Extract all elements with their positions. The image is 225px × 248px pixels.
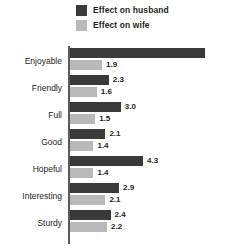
bars-container: 2.42.2 [70,209,225,236]
bar-husband[interactable] [70,183,120,193]
bar-wife[interactable] [70,222,108,232]
plot-area: Enjoyable7.91.9Friendly2.31.6Full3.01.5G… [0,44,224,248]
category-label: Hopeful [0,155,62,182]
bar-value-label: 1.4 [97,141,108,151]
bar-husband[interactable] [70,210,111,220]
bar-value-label: 1.5 [99,114,110,124]
bar-row: 2.1 [70,195,121,205]
bar-wife[interactable] [70,114,96,124]
bar-husband[interactable] [70,129,106,139]
bar-row: 1.6 [70,87,112,97]
bar-wife[interactable] [70,141,94,151]
bar-row: 7.9 [70,48,225,58]
bar-value-label: 2.9 [123,183,134,193]
bar-group: Full3.01.5 [0,101,224,128]
bar-value-label: 4.3 [147,156,158,166]
bar-value-label: 1.9 [106,60,117,70]
bar-value-label: 3.0 [125,102,136,112]
bar-chart: Effect on husbandEffect on wife Enjoyabl… [0,0,224,248]
bar-group: Hopeful4.31.4 [0,155,224,182]
legend-item-label: Effect on husband [93,5,169,16]
bars-container: 2.92.1 [70,182,225,209]
legend-item[interactable]: Effect on husband [76,4,169,16]
bar-husband[interactable] [70,75,109,85]
bar-value-label: 1.6 [101,87,112,97]
bar-row: 1.4 [70,168,109,178]
bar-row: 2.1 [70,129,121,139]
bars-container: 2.31.6 [70,74,225,101]
bar-groups: Enjoyable7.91.9Friendly2.31.6Full3.01.5G… [0,47,224,236]
bar-value-label: 2.4 [115,210,126,220]
category-label: Enjoyable [0,47,62,74]
category-label: Good [0,128,62,155]
bar-group: Enjoyable7.91.9 [0,47,224,74]
bar-group: Good2.11.4 [0,128,224,155]
legend-item-label: Effect on wife [93,20,150,31]
legend-item[interactable]: Effect on wife [76,19,169,31]
bar-group: Interesting2.92.1 [0,182,224,209]
category-label: Interesting [0,182,62,209]
bar-row: 2.4 [70,210,126,220]
bar-row: 1.4 [70,141,109,151]
bar-row: 1.5 [70,114,111,124]
bar-row: 2.2 [70,222,123,232]
bar-group: Friendly2.31.6 [0,74,224,101]
chart-legend: Effect on husbandEffect on wife [76,4,169,31]
bar-husband[interactable]: 7.9 [70,48,205,58]
bars-container: 4.31.4 [70,155,225,182]
bar-wife[interactable] [70,195,106,205]
bar-wife[interactable] [70,87,97,97]
bars-container: 7.91.9 [70,47,225,74]
category-label: Friendly [0,74,62,101]
bar-husband[interactable] [70,156,144,166]
bar-value-label: 2.1 [109,195,120,205]
bar-row: 1.9 [70,60,118,70]
bar-row: 3.0 [70,102,136,112]
bar-wife[interactable] [70,60,102,70]
category-label: Sturdy [0,209,62,236]
bar-value-label: 1.4 [97,168,108,178]
bar-value-label: 2.1 [109,129,120,139]
bar-wife[interactable] [70,168,94,178]
bar-row: 4.3 [70,156,159,166]
legend-swatch-icon [76,20,87,31]
bar-row: 2.9 [70,183,135,193]
bar-row: 2.3 [70,75,124,85]
bar-husband[interactable] [70,102,121,112]
bar-group: Sturdy2.42.2 [0,209,224,236]
bars-container: 3.01.5 [70,101,225,128]
bar-value-label: 2.2 [111,222,122,232]
bar-value-label: 2.3 [113,75,124,85]
category-label: Full [0,101,62,128]
bar-value-label: 7.9 [209,48,220,58]
bars-container: 2.11.4 [70,128,225,155]
legend-swatch-icon [76,5,87,16]
